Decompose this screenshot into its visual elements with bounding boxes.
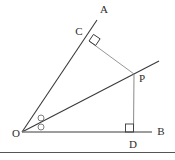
- point-label-p: P: [139, 72, 145, 84]
- point-label-b: B: [157, 125, 164, 137]
- point-label-a: A: [100, 3, 108, 15]
- geometry-figure: A C P O D B: [0, 0, 175, 160]
- point-label-c: C: [75, 25, 82, 37]
- equal-angle-mark-2: [38, 124, 44, 130]
- right-angle-mark-c: [89, 34, 100, 45]
- geometry-canvas: A C P O D B: [0, 0, 175, 160]
- point-label-o: O: [12, 127, 20, 139]
- point-label-d: D: [129, 138, 137, 150]
- right-angle-mark-d: [126, 124, 134, 132]
- equal-angle-mark-1: [38, 115, 44, 121]
- segment-pd: [134, 74, 135, 132]
- ray-oa: [22, 20, 97, 132]
